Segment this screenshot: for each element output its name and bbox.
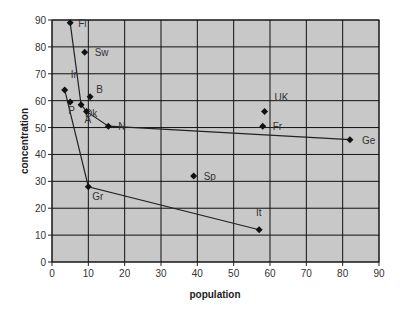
data-point-label: Fr <box>273 121 283 132</box>
y-tick-label: 50 <box>35 123 47 134</box>
y-tick-label: 30 <box>35 176 47 187</box>
data-point-label: It <box>256 207 262 218</box>
scatter-chart: 0102030405060708090 0102030405060708090 … <box>0 0 405 315</box>
data-point-label: Ge <box>362 135 376 146</box>
y-tick-label: 60 <box>35 96 47 107</box>
data-point-label: A <box>85 114 92 125</box>
y-tick-label: 70 <box>35 69 47 80</box>
x-tick-label: 30 <box>155 268 167 279</box>
data-point-label: Sp <box>204 171 217 182</box>
data-point-label: Ir <box>71 69 78 80</box>
x-tick-label: 90 <box>373 268 385 279</box>
x-tick-label: 80 <box>337 268 349 279</box>
data-point-label: Sw <box>95 47 110 58</box>
y-tick-label: 10 <box>35 230 47 241</box>
data-point-label: N <box>118 121 125 132</box>
x-tick-label: 0 <box>49 268 55 279</box>
x-tick-label: 50 <box>228 268 240 279</box>
data-point-label: B <box>96 84 103 95</box>
y-tick-label: 90 <box>35 15 47 26</box>
y-tick-label: 80 <box>35 42 47 53</box>
y-tick-label: 0 <box>40 257 46 268</box>
y-axis-title: concentration <box>19 108 30 174</box>
x-tick-label: 20 <box>119 268 131 279</box>
y-axis-ticks: 0102030405060708090 <box>35 15 52 268</box>
data-point-label: P <box>68 105 75 116</box>
x-axis-title: population <box>189 289 240 300</box>
data-point-label: Fi <box>78 18 86 29</box>
y-tick-label: 20 <box>35 203 47 214</box>
x-tick-label: 40 <box>192 268 204 279</box>
data-point-label: Gr <box>92 191 104 202</box>
x-axis-ticks: 0102030405060708090 <box>49 262 385 279</box>
x-tick-label: 10 <box>83 268 95 279</box>
x-tick-label: 60 <box>264 268 276 279</box>
y-tick-label: 40 <box>35 149 47 160</box>
data-point-label: UK <box>275 92 289 103</box>
x-tick-label: 70 <box>301 268 313 279</box>
